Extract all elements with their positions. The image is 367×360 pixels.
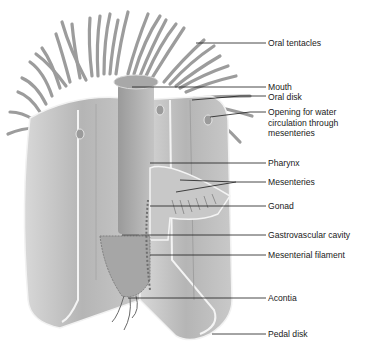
label-acontia: Acontia (268, 293, 297, 304)
label-oral-disk: Oral disk (268, 92, 302, 103)
label-oral-tentacles: Oral tentacles (268, 38, 321, 49)
label-opening-for-water-circulation: Opening for water circulation through me… (268, 107, 367, 139)
label-gonad: Gonad (268, 201, 294, 212)
label-pharynx: Pharynx (268, 158, 300, 169)
label-mesenteries: Mesenteries (268, 177, 315, 188)
label-pedal-disk: Pedal disk (268, 329, 308, 340)
label-gastrovascular-cavity: Gastrovascular cavity (268, 230, 350, 241)
pharynx-illustration (118, 84, 154, 234)
label-mouth: Mouth (268, 82, 292, 93)
label-mesenterial-filament: Mesenterial filament (268, 250, 345, 261)
